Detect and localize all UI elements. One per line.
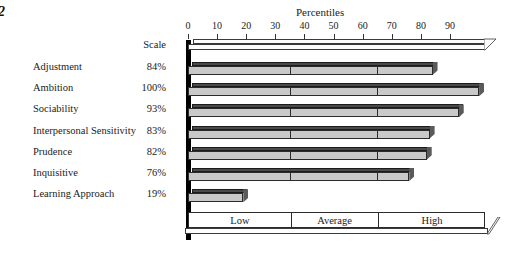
band-separator bbox=[291, 213, 292, 227]
bottom-axis-plinth bbox=[185, 228, 488, 234]
bar-front-face bbox=[188, 130, 430, 139]
bar-band-divider bbox=[290, 131, 291, 138]
x-axis-end-wedge bbox=[484, 38, 498, 52]
bar bbox=[188, 62, 438, 75]
bar-front-face bbox=[188, 193, 243, 202]
bar bbox=[188, 126, 435, 139]
bar-front-face bbox=[188, 108, 459, 117]
band-separator bbox=[378, 213, 379, 227]
bar bbox=[188, 104, 464, 117]
band-legend: LowAverageHigh bbox=[188, 212, 485, 228]
bar-side-face bbox=[459, 104, 464, 117]
bar-side-face bbox=[427, 147, 432, 160]
bar bbox=[188, 83, 484, 96]
band-label-high: High bbox=[378, 213, 486, 227]
band-label-low: Low bbox=[189, 213, 291, 227]
bar-band-divider bbox=[377, 88, 378, 95]
bar-band-divider bbox=[290, 109, 291, 116]
bar-band-divider bbox=[377, 152, 378, 159]
bottom-axis-end-wedge bbox=[487, 217, 503, 237]
bar bbox=[188, 189, 248, 202]
band-label-average: Average bbox=[291, 213, 378, 227]
bar-band-divider bbox=[377, 109, 378, 116]
bar bbox=[188, 147, 432, 160]
bar-band-divider bbox=[377, 131, 378, 138]
bar-side-face bbox=[479, 83, 484, 96]
bar-front-face bbox=[188, 66, 433, 75]
x-axis-front-face bbox=[188, 44, 485, 50]
bar-band-divider bbox=[290, 173, 291, 180]
bar-side-face bbox=[409, 168, 414, 181]
bar-band-divider bbox=[377, 67, 378, 74]
bar-side-face bbox=[433, 62, 438, 75]
bar-band-divider bbox=[290, 152, 291, 159]
bar-front-face bbox=[188, 172, 409, 181]
bar-band-divider bbox=[377, 173, 378, 180]
bar-side-face bbox=[243, 189, 248, 202]
bar-front-face bbox=[188, 87, 479, 96]
chart-plot-area: LowAverageHigh bbox=[0, 0, 513, 277]
bar-band-divider bbox=[290, 67, 291, 74]
bar-band-divider bbox=[290, 88, 291, 95]
bar bbox=[188, 168, 414, 181]
bar-front-face bbox=[188, 151, 427, 160]
bar-side-face bbox=[430, 126, 435, 139]
